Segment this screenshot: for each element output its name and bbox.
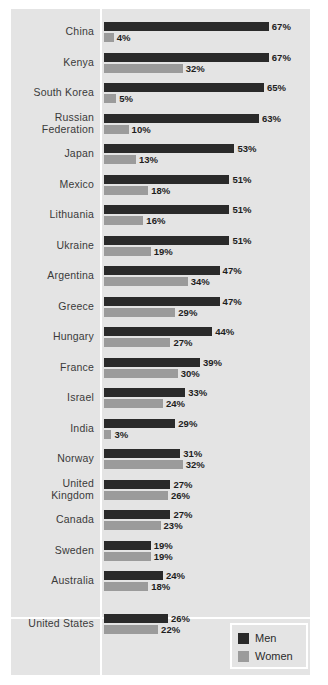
bar-value-women: 4% [117, 31, 131, 44]
row-label-line: Greece [58, 301, 94, 313]
row-label-line: Ukraine [56, 240, 94, 252]
row-bars: 33%24% [104, 383, 310, 413]
bar-fill-women [104, 338, 170, 347]
row-bars: 47%34% [104, 261, 310, 291]
bar-value-women: 18% [151, 184, 170, 197]
bar-row: Argentina47%34% [11, 261, 310, 291]
bar-value-women: 23% [164, 519, 183, 532]
bar-fill-women [104, 369, 178, 378]
bar-value-men: 33% [188, 386, 207, 399]
row-label: Japan [11, 139, 94, 169]
bar-fill-men [104, 266, 220, 275]
row-label-line: Lithuania [50, 209, 94, 221]
bar-fill-women [104, 430, 111, 439]
row-label-line: Russian [55, 112, 94, 124]
row-label-line: Canada [56, 514, 94, 526]
row-bars: 51%16% [104, 200, 310, 230]
bar-value-women: 3% [114, 428, 128, 441]
bar-value-women: 10% [132, 123, 151, 136]
row-label-line: South Korea [33, 87, 94, 99]
bar-fill-women [104, 521, 161, 530]
bar-row: South Korea65%5% [11, 78, 310, 108]
row-label: Australia [11, 566, 94, 596]
bar-row: Australia24%18% [11, 566, 310, 596]
bar-fill-women [104, 552, 151, 561]
bar-value-women: 24% [166, 397, 185, 410]
row-label-line: France [60, 362, 94, 374]
bar-value-men: 65% [267, 81, 286, 94]
row-label: Sweden [11, 536, 94, 566]
bar-value-women: 13% [139, 153, 158, 166]
bar-value-women: 32% [186, 458, 205, 471]
row-label: Greece [11, 292, 94, 322]
bar-row: India29%3% [11, 414, 310, 444]
bar-fill-men [104, 53, 269, 62]
bar-fill-men [104, 449, 180, 458]
bar-value-men: 63% [262, 112, 281, 125]
bar-fill-men [104, 236, 229, 245]
bar-value-women: 32% [186, 62, 205, 75]
row-bars: 67%32% [104, 48, 310, 78]
row-label-line: Australia [51, 575, 94, 587]
bar-fill-women [104, 186, 148, 195]
row-label: Norway [11, 444, 94, 474]
row-bars: 51%18% [104, 170, 310, 200]
row-label-line: United [62, 478, 94, 490]
bar-row: Ukraine51%19% [11, 231, 310, 261]
bar-fill-women [104, 308, 175, 317]
row-label: Kenya [11, 48, 94, 78]
row-label: India [11, 414, 94, 444]
bar-value-women: 30% [181, 367, 200, 380]
bar-value-women: 26% [171, 489, 190, 502]
bar-fill-men [104, 388, 185, 397]
chart-legend: Men Women [230, 623, 308, 669]
row-bars: 39%30% [104, 353, 310, 383]
bar-fill-women [104, 125, 129, 134]
row-label-line: Argentina [47, 270, 94, 282]
bar-value-women: 34% [191, 275, 210, 288]
row-label: France [11, 353, 94, 383]
bar-fill-men [104, 297, 220, 306]
row-label: RussianFederation [11, 109, 94, 139]
row-label-line: Sweden [55, 545, 94, 557]
bar-value-women: 19% [154, 550, 173, 563]
bar-value-men: 51% [232, 173, 251, 186]
bar-value-men: 47% [223, 264, 242, 277]
bar-fill-men [104, 205, 229, 214]
row-label: United States [11, 609, 94, 639]
bar-fill-men [104, 175, 229, 184]
bar-fill-women [104, 33, 114, 42]
row-label-line: United States [28, 618, 94, 630]
bar-fill-women [104, 64, 183, 73]
legend-swatch-women-icon [238, 651, 249, 662]
bar-fill-men [104, 327, 212, 336]
bar-row: Lithuania51%16% [11, 200, 310, 230]
legend-swatch-men-icon [238, 633, 249, 644]
bar-value-men: 67% [272, 20, 291, 33]
bar-value-men: 51% [232, 234, 251, 247]
bar-value-men: 44% [215, 325, 234, 338]
bar-fill-women [104, 460, 183, 469]
chart-panel: China67%4%Kenya67%32%South Korea65%5%Rus… [11, 9, 310, 675]
row-label: Mexico [11, 170, 94, 200]
bar-row: Canada27%23% [11, 505, 310, 535]
row-bars: 29%3% [104, 414, 310, 444]
bar-fill-women [104, 399, 163, 408]
bar-row: China67%4% [11, 17, 310, 47]
bar-fill-women [104, 625, 158, 634]
bar-value-women: 27% [173, 336, 192, 349]
row-label: Hungary [11, 322, 94, 352]
bar-row: RussianFederation63%10% [11, 109, 310, 139]
row-label: Lithuania [11, 200, 94, 230]
bar-row: France39%30% [11, 353, 310, 383]
bar-fill-men [104, 144, 234, 153]
row-bars: 67%4% [104, 17, 310, 47]
legend-label-men: Men [255, 632, 276, 644]
row-bars: 53%13% [104, 139, 310, 169]
bar-fill-men [104, 541, 151, 550]
row-bars: 44%27% [104, 322, 310, 352]
row-bars: 27%26% [104, 475, 310, 505]
row-bars: 19%19% [104, 536, 310, 566]
bar-fill-women [104, 94, 116, 103]
row-bars: 65%5% [104, 78, 310, 108]
